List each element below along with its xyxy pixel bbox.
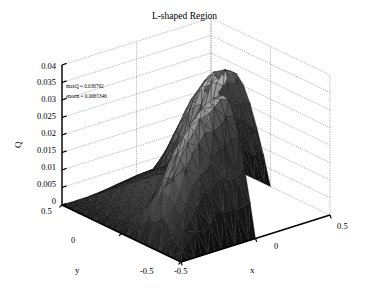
- z-tick-label: 0.03: [16, 95, 56, 104]
- z-tick-label: 0.025: [16, 112, 56, 121]
- annotation-maxq: maxQ = 0.036762: [66, 84, 104, 89]
- page-title: L-shaped Region: [0, 12, 369, 22]
- x-tick-label: -0.5: [174, 267, 187, 276]
- z-tick-label: 0: [16, 197, 56, 206]
- z-tick-label: 0.02: [16, 129, 56, 138]
- y-tick-label: -0.5: [140, 267, 153, 276]
- annotation-enorm: enorm = 0.0065346: [66, 94, 107, 99]
- x-tick-label: 0.5: [337, 222, 348, 231]
- z-tick-label: 0.015: [16, 146, 56, 155]
- axis-label-y: y: [75, 266, 80, 275]
- z-tick-label: 0.01: [16, 163, 56, 172]
- figure-canvas: L-shaped Region maxQ = 0.036762 enorm = …: [0, 0, 369, 291]
- z-tick-label: 0.04: [16, 62, 56, 71]
- axis-label-x: x: [250, 266, 255, 275]
- z-tick-label: 0.035: [16, 78, 56, 87]
- y-tick-label: 0.5: [41, 207, 52, 216]
- x-tick-label: 0: [274, 242, 278, 251]
- z-tick-label: 0.005: [16, 180, 56, 189]
- y-tick-label: 0: [71, 236, 75, 245]
